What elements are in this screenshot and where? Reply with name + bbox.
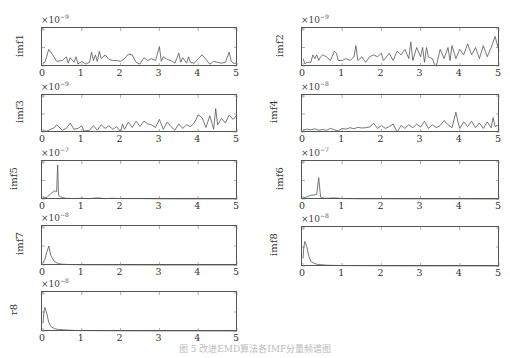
exponent-label: ×10−8 [41, 211, 69, 223]
x-tick-label: 1 [78, 133, 84, 144]
line-series [302, 28, 500, 67]
x-tick-label: 3 [155, 67, 161, 78]
exponent-label: ×10−9 [41, 13, 69, 25]
x-tick-label: 2 [377, 200, 383, 211]
x-tick-label: 0 [39, 266, 45, 277]
x-tick-label: 0 [39, 67, 45, 78]
x-tick-label: 5 [495, 267, 501, 278]
exponent-label: ×10−9 [41, 80, 69, 92]
exponent-label: ×10−8 [301, 80, 329, 92]
x-tick-label: 3 [155, 200, 161, 211]
x-tick-label: 0 [39, 200, 45, 211]
figure-caption: 图 5 改进EMD算法各IMF分量频谱图 [0, 342, 510, 355]
plot-area [301, 226, 499, 266]
x-tick-label: 1 [78, 266, 84, 277]
x-tick-label: 4 [194, 200, 200, 211]
exponent-label: ×10−8 [301, 212, 329, 224]
exponent-label: ×10−8 [41, 277, 69, 289]
plot-area [301, 27, 499, 66]
x-tick-label: 2 [117, 266, 123, 277]
x-tick-label: 0 [39, 133, 45, 144]
x-tick-label: 3 [417, 200, 423, 211]
y-axis-label: imf8 [268, 225, 279, 265]
x-tick-label: 5 [233, 133, 239, 144]
x-tick-label: 2 [117, 133, 123, 144]
y-axis-label: imf7 [14, 224, 25, 264]
line-series [42, 292, 238, 332]
x-tick-label: 5 [233, 200, 239, 211]
x-tick-label: 2 [117, 67, 123, 78]
plot-area [301, 94, 499, 132]
x-tick-label: 1 [338, 67, 344, 78]
x-tick-label: 2 [377, 267, 383, 278]
line-series [302, 227, 500, 267]
exponent-label: ×10−7 [301, 146, 329, 158]
x-tick-label: 1 [338, 133, 344, 144]
x-tick-label: 3 [155, 133, 161, 144]
plot-area [41, 160, 237, 199]
line-series [42, 161, 238, 200]
x-tick-label: 4 [456, 267, 462, 278]
line-series [42, 95, 238, 133]
plot-area [41, 225, 237, 265]
y-axis-label: imf1 [14, 25, 25, 65]
exponent-label: ×10−7 [41, 146, 69, 158]
y-axis-label: imf5 [8, 158, 19, 198]
x-tick-label: 5 [233, 266, 239, 277]
exponent-label: ×10−9 [301, 13, 329, 25]
line-series [42, 226, 238, 266]
y-axis-label: imf6 [274, 158, 285, 198]
x-tick-label: 0 [299, 267, 305, 278]
plot-area [41, 27, 237, 66]
line-series [302, 95, 500, 133]
y-axis-label: imf2 [274, 25, 285, 65]
plot-area [41, 291, 237, 331]
x-tick-label: 4 [194, 67, 200, 78]
y-axis-label: imf4 [268, 92, 279, 132]
plot-area [41, 94, 237, 132]
y-axis-label: r8 [8, 290, 19, 330]
x-tick-label: 0 [299, 200, 305, 211]
x-tick-label: 3 [155, 266, 161, 277]
x-tick-label: 4 [456, 133, 462, 144]
x-tick-label: 2 [377, 133, 383, 144]
x-tick-label: 3 [417, 67, 423, 78]
x-tick-label: 4 [456, 67, 462, 78]
x-tick-label: 5 [233, 67, 239, 78]
x-tick-label: 2 [377, 67, 383, 78]
plot-area [301, 160, 499, 199]
x-tick-label: 3 [417, 133, 423, 144]
x-tick-label: 4 [456, 200, 462, 211]
x-tick-label: 0 [299, 133, 305, 144]
x-tick-label: 1 [338, 200, 344, 211]
x-tick-label: 1 [78, 67, 84, 78]
line-series [302, 161, 500, 200]
x-tick-label: 5 [495, 133, 501, 144]
x-tick-label: 5 [495, 200, 501, 211]
line-series [42, 28, 238, 67]
x-tick-label: 1 [78, 200, 84, 211]
x-tick-label: 4 [194, 133, 200, 144]
x-tick-label: 2 [117, 200, 123, 211]
x-tick-label: 1 [338, 267, 344, 278]
x-tick-label: 0 [299, 67, 305, 78]
x-tick-label: 4 [194, 266, 200, 277]
x-tick-label: 3 [417, 267, 423, 278]
x-tick-label: 5 [495, 67, 501, 78]
y-axis-label: imf3 [14, 92, 25, 132]
